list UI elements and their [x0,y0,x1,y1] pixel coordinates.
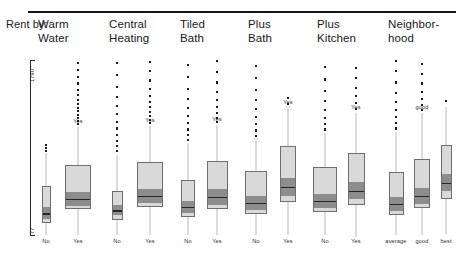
upper-whisker [356,113,357,153]
lower-whisker [46,223,47,235]
boxplot-figure: Rent by: Warm WaterCentral HeatingTiled … [0,0,468,263]
upper-whisker [217,125,218,161]
outlier-point [77,82,79,84]
median-line [442,183,451,184]
outlier-point [149,111,151,113]
box-iqr [441,145,452,199]
group-title-5: Neighbor- hood [388,18,439,45]
boxplot-column: YesYes [207,52,228,248]
outlier-point [255,129,257,131]
outlier-point [324,66,326,68]
outlier-point [116,127,118,129]
outlier-point [395,92,397,94]
outlier-point [395,70,397,72]
outlier-point [395,116,397,118]
outlier-point [421,91,423,93]
outlier-point [116,96,118,98]
upper-whisker [325,133,326,168]
outlier-point [395,109,397,111]
group-title-4: Plus Kitchen [317,18,356,45]
upper-whisker [288,108,289,146]
outlier-point [116,105,118,107]
outlier-point [324,100,326,102]
outlier-point [149,95,151,97]
median-line [66,199,90,200]
outlier-point [395,122,397,124]
outlier-point [324,78,326,80]
outlier-point [255,77,257,79]
outlier-point [77,99,79,101]
outlier-point [255,135,257,137]
boxplot-column: YesYes [348,52,365,248]
lower-whisker [422,208,423,235]
outlier-point [216,91,218,93]
outlier-point [116,113,118,115]
outlier-point [77,76,79,78]
median-line [208,197,227,198]
upper-whisker [117,155,118,191]
outlier-point [216,71,218,73]
lower-whisker [356,205,357,237]
outlier-point [255,123,257,125]
median-line [138,196,162,197]
outlier-point [395,101,397,103]
outlier-point [77,62,79,64]
outlier-point [324,109,326,111]
upper-whisker [188,143,189,180]
outlier-point [45,150,47,152]
outlier-point [116,86,118,88]
outlier-point [149,88,151,90]
outlier-point [77,89,79,91]
y-axis-tick-top: 1790 [29,69,35,82]
outlier-point [395,127,397,129]
outlier-point [395,60,397,62]
outlier-point [187,139,189,141]
outlier-point [255,89,257,91]
box-iqr [181,180,195,218]
boxplot-column: YesYes [65,52,91,248]
y-axis-line [30,60,31,235]
outlier-point [149,70,151,72]
median-line [246,203,266,204]
outlier-point [355,77,357,79]
outlier-point [187,88,189,90]
outlier-point [77,103,79,105]
box-iqr [65,165,91,209]
lower-whisker [396,215,397,235]
outlier-point [216,99,218,101]
outlier-point [149,101,151,103]
outlier-point [324,90,326,92]
category-label: No [321,238,328,244]
outlier-point [255,108,257,110]
outlier-point [187,64,189,66]
box-iqr [137,162,163,207]
upper-whisker [396,132,397,173]
outlier-point [116,121,118,123]
outlier-point [324,117,326,119]
lower-whisker [117,220,118,235]
outlier-point [324,123,326,125]
group-header-row: Rent by: Warm WaterCentral HeatingTiled … [0,18,468,52]
boxplot-column: best [441,52,452,248]
group-title-3: Plus Bath [248,18,272,45]
top-category-label: Yes [351,104,361,110]
y-axis-bottom-cap [30,235,35,236]
box-iqr [280,146,296,202]
median-line [349,191,364,192]
median-line [314,201,336,202]
boxplot-column: No [313,52,337,248]
outlier-point [355,67,357,69]
outlier-point [116,145,118,147]
outlier-point [395,81,397,83]
upper-whisker [150,126,151,162]
outlier-point [187,115,189,117]
outlier-point [77,107,79,109]
top-rule [28,11,456,13]
outlier-point [421,73,423,75]
outlier-point [116,140,118,142]
lower-whisker [150,207,151,235]
category-label: No [184,238,191,244]
boxplot-column: goodgood [414,52,430,248]
outlier-point [187,122,189,124]
box-iqr [42,186,51,224]
